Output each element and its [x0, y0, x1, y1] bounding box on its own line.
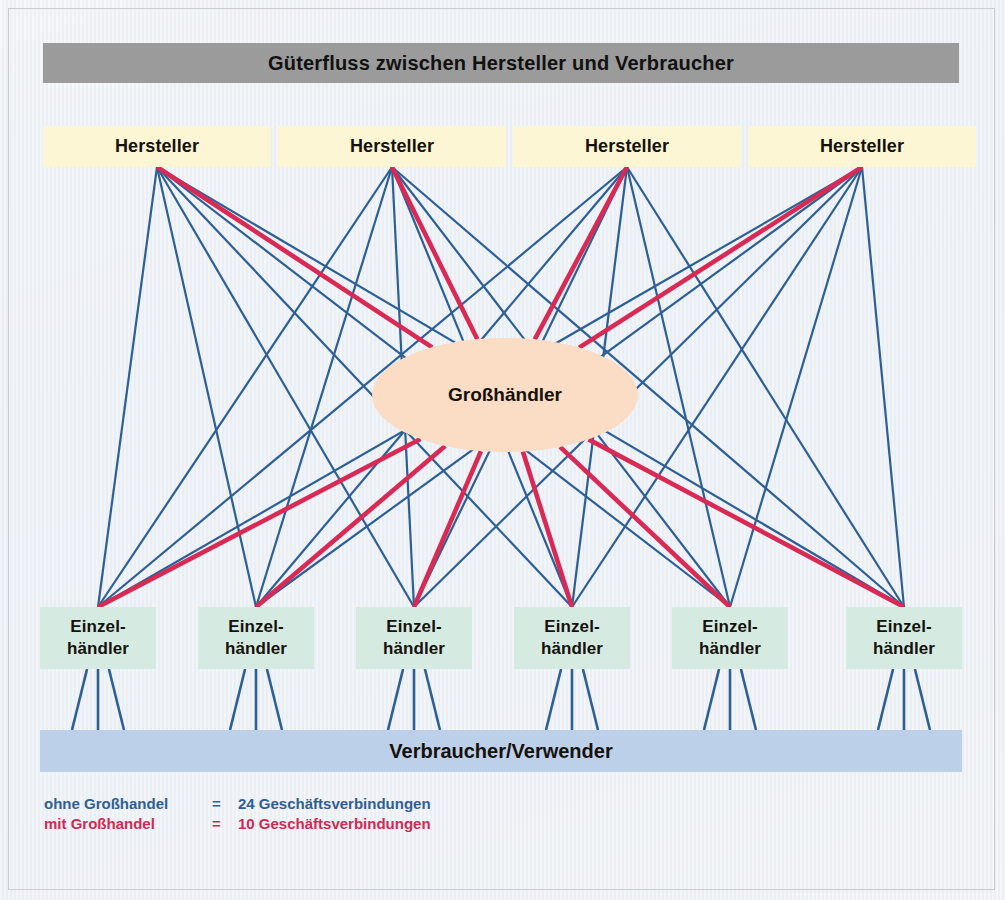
wholesale-line-p3 — [535, 167, 627, 339]
wholesale-line-p4 — [579, 167, 862, 348]
consumer-tick-r6-1 — [878, 669, 893, 730]
consumer-tick-r4-3 — [583, 669, 598, 730]
direct-line-p3-r6 — [627, 167, 904, 607]
consumer-tick-r5-3 — [741, 669, 756, 730]
wholesale-line-r6 — [589, 439, 904, 607]
legend-value-direct: 24 Geschäftsverbindungen — [238, 795, 431, 812]
consumer-bar: Verbraucher/Verwender — [40, 730, 962, 772]
retailer-label-line2: händler — [873, 638, 935, 660]
wholesale-line-r2 — [256, 446, 445, 607]
retailer-label-line1: Einzel- — [699, 616, 761, 638]
consumer-tick-r2-1 — [230, 669, 245, 730]
retailer-label-line2: händler — [67, 638, 129, 660]
consumer-tick-r3-3 — [425, 669, 440, 730]
legend-label-direct: ohne Großhandel — [44, 795, 212, 812]
legend-row-direct: ohne Großhandel = 24 Geschäftsverbindung… — [44, 795, 644, 812]
consumer-tick-r2-3 — [267, 669, 282, 730]
consumer-tick-r3-1 — [388, 669, 403, 730]
retailer-label-line1: Einzel- — [67, 616, 129, 638]
diagram-title: Güterfluss zwischen Hersteller und Verbr… — [43, 43, 959, 83]
retailer-label-line2: händler — [541, 638, 603, 660]
retailer-label-line2: händler — [383, 638, 445, 660]
wholesaler-node: Großhändler — [372, 338, 638, 452]
retailer-label-line1: Einzel- — [541, 616, 603, 638]
retailer-box-3: Einzel- händler — [356, 607, 472, 669]
consumer-tick-r1-1 — [72, 669, 87, 730]
consumer-tick-r6-3 — [915, 669, 930, 730]
consumer-tick-r4-1 — [546, 669, 561, 730]
retailer-box-6: Einzel- händler — [846, 607, 962, 669]
retailer-label-line2: händler — [225, 638, 287, 660]
direct-line-p1-r1 — [98, 167, 157, 607]
direct-line-p2-r2 — [256, 167, 392, 607]
legend-row-wholesale: mit Großhandel = 10 Geschäftsverbindunge… — [44, 815, 644, 832]
direct-line-p4-r6 — [862, 167, 904, 607]
retailer-label-line1: Einzel- — [383, 616, 445, 638]
legend-value-wholesale: 10 Geschäftsverbindungen — [238, 815, 431, 832]
legend-equals-wholesale: = — [212, 815, 238, 832]
retailer-label-line1: Einzel- — [873, 616, 935, 638]
diagram-canvas: Güterfluss zwischen Hersteller und Verbr… — [0, 0, 1005, 900]
producer-box-3: Hersteller — [513, 126, 741, 167]
legend-label-wholesale: mit Großhandel — [44, 815, 212, 832]
producer-box-1: Hersteller — [43, 126, 271, 167]
retailer-box-4: Einzel- händler — [514, 607, 630, 669]
retailer-box-5: Einzel- händler — [672, 607, 788, 669]
wholesale-line-p1 — [157, 167, 432, 347]
retailer-box-2: Einzel- händler — [198, 607, 314, 669]
producer-box-4: Hersteller — [748, 126, 976, 167]
legend-equals-direct: = — [212, 795, 238, 812]
consumer-tick-r5-1 — [704, 669, 719, 730]
retailer-box-1: Einzel- händler — [40, 607, 156, 669]
retailer-label-line2: händler — [699, 638, 761, 660]
consumer-tick-r1-3 — [109, 669, 124, 730]
legend: ohne Großhandel = 24 Geschäftsverbindung… — [44, 795, 644, 835]
retailer-label-line1: Einzel- — [225, 616, 287, 638]
producer-box-2: Hersteller — [278, 126, 506, 167]
